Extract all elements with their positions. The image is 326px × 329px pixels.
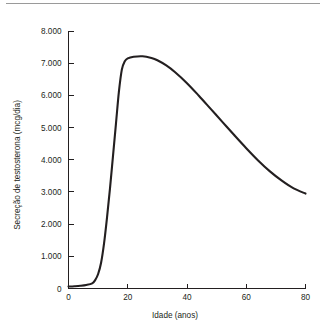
y-tick-label: 2.000 <box>41 220 62 229</box>
x-axis: 020406080 <box>66 284 310 302</box>
testosterone-curve <box>69 56 306 286</box>
y-axis: 01.0002.0003.0004.0005.0006.0007.0008.00… <box>41 27 74 294</box>
testosterone-secretion-chart: 01.0002.0003.0004.0005.0006.0007.0008.00… <box>0 0 326 329</box>
y-axis-ticks <box>69 31 74 289</box>
y-axis-tick-labels: 01.0002.0003.0004.0005.0006.0007.0008.00… <box>41 27 62 294</box>
x-axis-ticks <box>128 284 306 289</box>
x-tick-label: 20 <box>123 293 133 302</box>
y-tick-label: 8.000 <box>41 27 62 36</box>
x-tick-label: 60 <box>242 293 252 302</box>
y-axis-title: Secreção de testosterona (mcg/dia) <box>13 100 22 230</box>
x-axis-tick-labels: 020406080 <box>66 293 310 302</box>
y-tick-label: 4.000 <box>41 156 62 165</box>
y-tick-label: 7.000 <box>41 59 62 68</box>
y-tick-label: 3.000 <box>41 188 62 197</box>
chart-canvas: 01.0002.0003.0004.0005.0006.0007.0008.00… <box>0 0 326 329</box>
y-tick-label: 0 <box>57 285 62 294</box>
x-tick-label: 0 <box>66 293 71 302</box>
x-tick-label: 40 <box>182 293 192 302</box>
x-axis-title: Idade (anos) <box>152 311 198 320</box>
y-tick-label: 6.000 <box>41 91 62 100</box>
y-tick-label: 1.000 <box>41 252 62 261</box>
x-tick-label: 80 <box>301 293 311 302</box>
y-tick-label: 5.000 <box>41 124 62 133</box>
